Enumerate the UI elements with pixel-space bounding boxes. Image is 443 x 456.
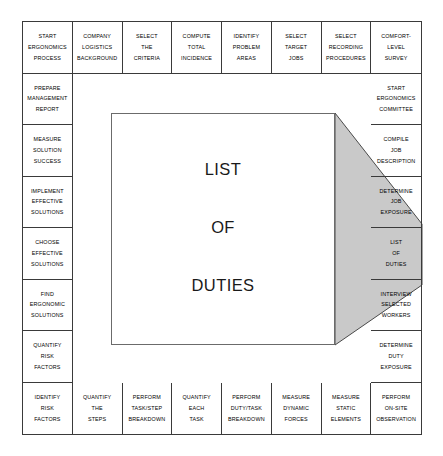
cell-line: FACTORS <box>34 362 60 373</box>
cell-line: SELECT <box>285 31 307 42</box>
cell-compute-total-incidence[interactable]: COMPUTE TOTAL INCIDENCE <box>172 22 222 74</box>
cell-line: QUANTIFY <box>182 392 210 403</box>
cell-line: DYNAMIC <box>283 403 309 414</box>
cell-line: ON-SITE <box>385 403 408 414</box>
cell-line: START <box>38 31 56 42</box>
cell-line: THE <box>92 403 103 414</box>
cell-line: PROBLEM <box>233 42 260 53</box>
cell-select-target-jobs[interactable]: SELECT TARGET JOBS <box>272 22 322 74</box>
cell-line: QUANTIFY <box>83 392 111 403</box>
cell-select-the-criteria[interactable]: SELECT THE CRITERIA <box>123 22 173 74</box>
cell-measure-dynamic-forces[interactable]: MEASURE DYNAMIC FORCES <box>272 383 322 435</box>
cell-start-ergonomics-committee[interactable]: START ERGONOMICS COMMITTEE <box>371 74 421 126</box>
cell-line: SOLUTIONS <box>31 310 64 321</box>
cell-line: RECORDING <box>329 42 363 53</box>
cell-line: DUTY <box>388 351 403 362</box>
cell-line: JOB <box>391 145 402 156</box>
cell-line: TASK <box>189 414 203 425</box>
cell-line: START <box>387 83 405 94</box>
cell-line: EXPOSURE <box>381 362 412 373</box>
cell-line: COMPUTE <box>183 31 211 42</box>
magnified-line-3: DUTIES <box>192 276 255 295</box>
cell-line: TOTAL <box>188 42 206 53</box>
cell-line: QUANTIFY <box>33 340 61 351</box>
cell-line: MEASURE <box>282 392 310 403</box>
cell-line: ERGONOMICS <box>28 42 67 53</box>
cell-line: DUTIES <box>386 259 407 270</box>
cell-line: SELECTED <box>381 299 411 310</box>
cell-quantify-risk-factors[interactable]: QUANTIFY RISK FACTORS <box>23 331 73 383</box>
cell-line: MEASURE <box>34 134 62 145</box>
cell-interview-selected-workers[interactable]: INTERVIEW SELECTED WORKERS <box>371 280 421 332</box>
cell-line: INCIDENCE <box>181 53 212 64</box>
cell-start-ergonomics-process[interactable]: START ERGONOMICS PROCESS <box>23 22 73 74</box>
cell-determine-job-exposure[interactable]: DETERMINE JOB EXPOSURE <box>371 177 421 229</box>
cell-list-of-duties[interactable]: LIST OF DUTIES <box>371 228 421 280</box>
cell-line: DUTY/TASK <box>231 403 262 414</box>
cell-line: BACKGROUND <box>77 53 117 64</box>
cell-line: MEASURE <box>332 392 360 403</box>
cell-line: PERFORM <box>382 392 410 403</box>
cell-line: OBSERVATION <box>376 414 416 425</box>
cell-line: TARGET <box>285 42 307 53</box>
cell-line: SOLUTIONS <box>31 259 64 270</box>
cell-measure-solution-success[interactable]: MEASURE SOLUTION SUCCESS <box>23 125 73 177</box>
cell-line: DETERMINE <box>380 340 413 351</box>
cell-determine-duty-exposure[interactable]: DETERMINE DUTY EXPOSURE <box>371 331 421 383</box>
cell-line: LIST <box>390 237 402 248</box>
cell-line: DESCRIPTION <box>377 156 416 167</box>
cell-line: COMPILE <box>383 134 408 145</box>
cell-compile-job-description[interactable]: COMPILE JOB DESCRIPTION <box>371 125 421 177</box>
cell-line: SUCCESS <box>34 156 61 167</box>
cell-perform-on-site-observation[interactable]: PERFORM ON-SITE OBSERVATION <box>371 383 421 435</box>
cell-line: OF <box>392 248 400 259</box>
cell-identify-risk-factors[interactable]: IDENTIFY RISK FACTORS <box>23 383 73 435</box>
cell-line: BREAKDOWN <box>228 414 265 425</box>
cell-line: LOGISTICS <box>82 42 112 53</box>
cell-line: STEPS <box>88 414 106 425</box>
cell-line: EACH <box>189 403 205 414</box>
cell-perform-duty-task-breakdown[interactable]: PERFORM DUTY/TASK BREAKDOWN <box>222 383 272 435</box>
cell-line: EFFECTIVE <box>32 248 63 259</box>
diagram-canvas: START ERGONOMICS PROCESS COMPANY LOGISTI… <box>0 0 443 456</box>
cell-select-recording-procedures[interactable]: SELECT RECORDING PROCEDURES <box>322 22 372 74</box>
cell-line: BREAKDOWN <box>129 414 166 425</box>
magnified-line-1: LIST <box>205 160 241 179</box>
cell-line: IDENTIFY <box>233 31 259 42</box>
cell-find-ergonomic-solutions[interactable]: FIND ERGONOMIC SOLUTIONS <box>23 280 73 332</box>
cell-line: PREPARE <box>34 83 60 94</box>
cell-line: SURVEY <box>385 53 408 64</box>
cell-line: WORKERS <box>382 310 411 321</box>
cell-choose-effective-solutions[interactable]: CHOOSE EFFECTIVE SOLUTIONS <box>23 228 73 280</box>
cell-line: ELEMENTS <box>331 414 361 425</box>
cell-line: EFFECTIVE <box>32 196 63 207</box>
cell-line: COMMITTEE <box>379 104 413 115</box>
cell-line: SELECT <box>335 31 357 42</box>
cell-prepare-management-report[interactable]: PREPARE MANAGEMENT REPORT <box>23 74 73 126</box>
cell-line: INTERVIEW <box>381 289 412 300</box>
cell-identify-problem-areas[interactable]: IDENTIFY PROBLEM AREAS <box>222 22 272 74</box>
cell-company-logistics-background[interactable]: COMPANY LOGISTICS BACKGROUND <box>73 22 123 74</box>
cell-line: FACTORS <box>34 414 60 425</box>
cell-line: RISK <box>41 351 54 362</box>
cell-comfort-level-survey[interactable]: COMFORT- LEVEL SURVEY <box>371 22 421 74</box>
cell-line: SOLUTIONS <box>31 207 64 218</box>
magnified-line-2: OF <box>211 218 235 237</box>
cell-line: CHOOSE <box>35 237 59 248</box>
cell-line: PROCESS <box>34 53 61 64</box>
cell-implement-effective-solutions[interactable]: IMPLEMENT EFFECTIVE SOLUTIONS <box>23 177 73 229</box>
cell-line: DETERMINE <box>380 186 413 197</box>
cell-measure-static-elements[interactable]: MEASURE STATIC ELEMENTS <box>322 383 372 435</box>
cell-line: IMPLEMENT <box>31 186 64 197</box>
cell-quantify-the-steps[interactable]: QUANTIFY THE STEPS <box>73 383 123 435</box>
cell-line: JOB <box>391 196 402 207</box>
cell-line: COMPANY <box>83 31 111 42</box>
cell-line: RISK <box>41 403 54 414</box>
cell-line: FIND <box>41 289 54 300</box>
cell-line: ERGONOMIC <box>30 299 65 310</box>
cell-line: THE <box>141 42 152 53</box>
cell-line: COMFORT- <box>381 31 411 42</box>
cell-perform-task-step-breakdown[interactable]: PERFORM TASK/STEP BREAKDOWN <box>123 383 173 435</box>
cell-line: PROCEDURES <box>326 53 366 64</box>
cell-quantify-each-task[interactable]: QUANTIFY EACH TASK <box>172 383 222 435</box>
